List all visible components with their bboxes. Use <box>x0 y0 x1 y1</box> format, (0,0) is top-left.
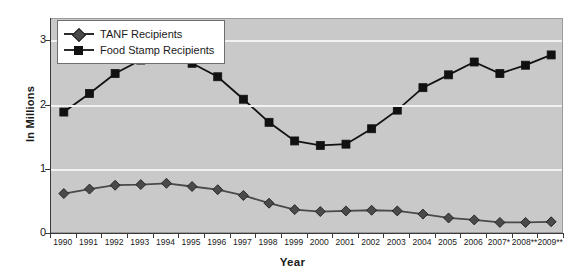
data-point-diamond <box>264 198 274 208</box>
x-tick-label: 2003 <box>387 237 406 247</box>
legend-label-food-stamp: Food Stamp Recipients <box>100 44 214 56</box>
data-point-diamond <box>444 213 454 223</box>
data-point-diamond <box>161 178 171 188</box>
chart-legend: TANF Recipients Food Stamp Recipients <box>57 20 225 64</box>
data-point-diamond <box>110 180 120 190</box>
x-tick-label: 2002 <box>361 237 380 247</box>
x-tick-mark <box>383 233 384 238</box>
y-tick-label: 1 <box>10 163 46 174</box>
data-point-square <box>368 125 376 133</box>
data-point-diamond <box>418 209 428 219</box>
x-tick-label: 2006 <box>464 237 483 247</box>
x-tick-mark <box>178 233 179 238</box>
y-tick-mark <box>45 169 50 170</box>
data-point-square <box>342 140 350 148</box>
data-point-diamond <box>367 205 377 215</box>
x-tick-mark <box>409 233 410 238</box>
data-point-square <box>85 89 93 97</box>
data-point-square <box>265 118 273 126</box>
data-point-diamond <box>187 182 197 192</box>
x-tick-label: 2004 <box>412 237 431 247</box>
gridline <box>51 105 562 107</box>
data-point-square <box>419 84 427 92</box>
x-tick-mark <box>50 233 51 238</box>
x-tick-mark <box>332 233 333 238</box>
x-tick-label: 1992 <box>105 237 124 247</box>
data-point-square <box>60 108 68 116</box>
x-tick-label: 2005 <box>438 237 457 247</box>
data-point-square <box>470 58 478 66</box>
x-tick-label: 1998 <box>259 237 278 247</box>
data-point-diamond <box>136 180 146 190</box>
data-point-diamond <box>238 190 248 200</box>
data-point-diamond <box>392 206 402 216</box>
data-point-square <box>547 51 555 59</box>
gridline <box>51 169 562 171</box>
data-point-diamond <box>521 217 531 227</box>
data-point-square <box>496 70 504 78</box>
data-point-diamond <box>315 207 325 217</box>
y-tick-label: 2 <box>10 99 46 110</box>
data-point-diamond <box>469 215 479 225</box>
x-tick-mark <box>460 233 461 238</box>
x-tick-mark <box>101 233 102 238</box>
x-tick-mark <box>204 233 205 238</box>
data-point-square <box>111 70 119 78</box>
data-point-diamond <box>341 206 351 216</box>
data-point-square <box>445 71 453 79</box>
x-tick-label: 1990 <box>53 237 72 247</box>
x-tick-label: 1994 <box>156 237 175 247</box>
y-axis-line <box>50 18 51 233</box>
data-point-diamond <box>84 184 94 194</box>
y-tick-mark <box>45 105 50 106</box>
x-tick-mark <box>76 233 77 238</box>
data-point-square <box>522 61 530 69</box>
data-point-diamond <box>546 217 556 227</box>
x-tick-mark <box>307 233 308 238</box>
x-tick-mark <box>435 233 436 238</box>
x-tick-label: 2009** <box>537 237 563 247</box>
legend-item-tanf: TANF Recipients <box>64 26 214 42</box>
data-point-square <box>393 106 401 114</box>
data-point-square <box>239 95 247 103</box>
x-tick-label: 1999 <box>284 237 303 247</box>
series-line <box>64 183 551 222</box>
legend-item-food-stamp: Food Stamp Recipients <box>64 42 214 58</box>
x-tick-label: 2001 <box>336 237 355 247</box>
x-tick-mark <box>358 233 359 238</box>
data-point-diamond <box>59 189 69 199</box>
x-tick-mark <box>230 233 231 238</box>
data-point-diamond <box>495 217 505 227</box>
x-tick-label: 1996 <box>207 237 226 247</box>
x-tick-label: 1995 <box>182 237 201 247</box>
x-tick-mark <box>255 233 256 238</box>
x-tick-label: 2008** <box>512 237 538 247</box>
diamond-marker-icon <box>64 28 94 40</box>
x-tick-mark <box>127 233 128 238</box>
x-axis-title: Year <box>0 256 585 268</box>
y-tick-mark <box>45 233 50 234</box>
x-tick-mark <box>153 233 154 238</box>
data-point-square <box>214 73 222 81</box>
data-point-diamond <box>213 185 223 195</box>
square-marker-icon <box>64 44 94 56</box>
data-point-square <box>316 141 324 149</box>
y-axis-tick-labels: 0123 <box>0 0 46 278</box>
x-tick-mark <box>281 233 282 238</box>
x-tick-label: 1991 <box>79 237 98 247</box>
y-tick-label: 0 <box>10 227 46 238</box>
line-chart: In Millions 0123 19901991199219931994199… <box>0 0 585 278</box>
x-tick-label: 1997 <box>233 237 252 247</box>
x-tick-label: 1993 <box>130 237 149 247</box>
legend-label-tanf: TANF Recipients <box>100 28 182 40</box>
x-tick-label: 2007* <box>488 237 510 247</box>
data-point-square <box>291 137 299 145</box>
y-tick-label: 3 <box>10 34 46 45</box>
x-tick-label: 2000 <box>310 237 329 247</box>
data-point-diamond <box>290 205 300 215</box>
series-line <box>64 54 551 146</box>
y-tick-mark <box>45 40 50 41</box>
